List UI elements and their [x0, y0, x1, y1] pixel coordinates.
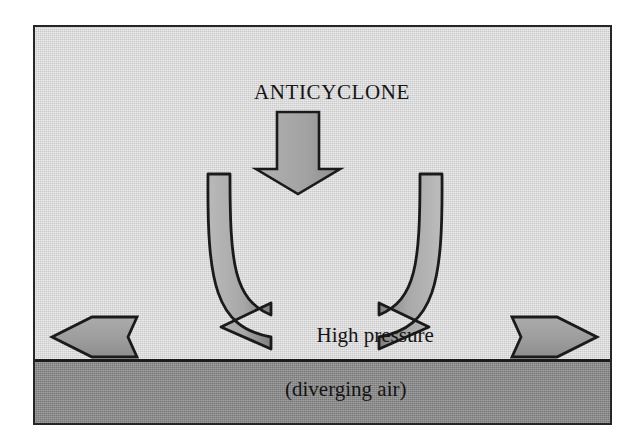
right-outflow-arrow [512, 317, 597, 357]
left-outflow-arrow [52, 317, 137, 357]
diagram-panel: ANTICYCLONE High pressure (diverging air… [33, 25, 612, 425]
page-title: ANTICYCLONE [254, 79, 410, 106]
pressure-line-1: High pressure [317, 323, 434, 347]
left-curving-arrow [208, 174, 271, 349]
pressure-annotation: High pressure (diverging air) [285, 295, 434, 425]
pressure-line-2: (diverging air) [285, 376, 434, 403]
figure-canvas: ANTICYCLONE High pressure (diverging air… [0, 0, 643, 439]
subsidence-arrow [256, 112, 340, 194]
